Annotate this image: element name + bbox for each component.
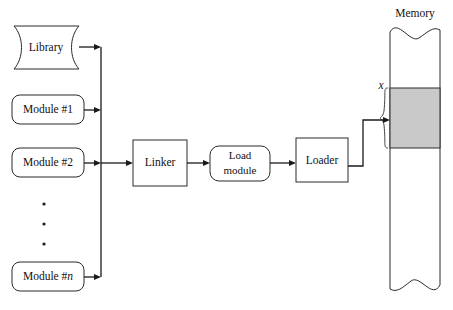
- module-1-label: Module #1: [23, 103, 73, 115]
- module-n-label-text: Module #: [23, 270, 68, 282]
- ellipsis-dot-1: [42, 202, 45, 205]
- load-module-label-line2: module: [224, 164, 257, 176]
- module-1-node: Module #1: [12, 95, 84, 124]
- loader-label: Loader: [306, 154, 339, 166]
- memory-loaded-block: [390, 88, 440, 148]
- module-2-node: Module #2: [12, 148, 84, 177]
- linker-node: Linker: [133, 140, 187, 186]
- library-to-bus-connector: [79, 44, 101, 50]
- memory-column: x Memory: [377, 7, 440, 291]
- load-module-to-loader-connector: [270, 160, 296, 166]
- loader-node: Loader: [296, 138, 348, 182]
- library-node: Library: [14, 26, 79, 69]
- load-module-node: Load module: [210, 146, 270, 181]
- library-label: Library: [29, 41, 64, 54]
- module-n-node: Module #n: [12, 262, 84, 291]
- memory-title: Memory: [395, 7, 435, 20]
- linker-to-load-module-connector: [187, 160, 210, 166]
- ellipsis-dot-2: [42, 222, 45, 225]
- modules-ellipsis: [42, 202, 45, 245]
- diagram-canvas: Library Module #1 Module #2 Module #n: [0, 0, 453, 310]
- load-module-label-line1: Load: [229, 149, 252, 161]
- linking-loading-diagram: Library Module #1 Module #2 Module #n: [0, 0, 453, 310]
- module-n-label: Module #n: [23, 270, 73, 282]
- linker-label: Linker: [145, 156, 176, 168]
- memory-outline: [390, 28, 440, 291]
- module-n-label-index: n: [67, 270, 73, 282]
- module-1-to-bus-connector: [84, 107, 101, 113]
- module-2-to-bus-connector: [84, 160, 101, 166]
- ellipsis-dot-3: [42, 242, 45, 245]
- module-2-label: Module #2: [23, 156, 73, 168]
- module-n-to-bus-connector: [84, 274, 101, 280]
- bus-to-linker-connector: [101, 160, 133, 166]
- memory-address-label: x: [377, 79, 384, 91]
